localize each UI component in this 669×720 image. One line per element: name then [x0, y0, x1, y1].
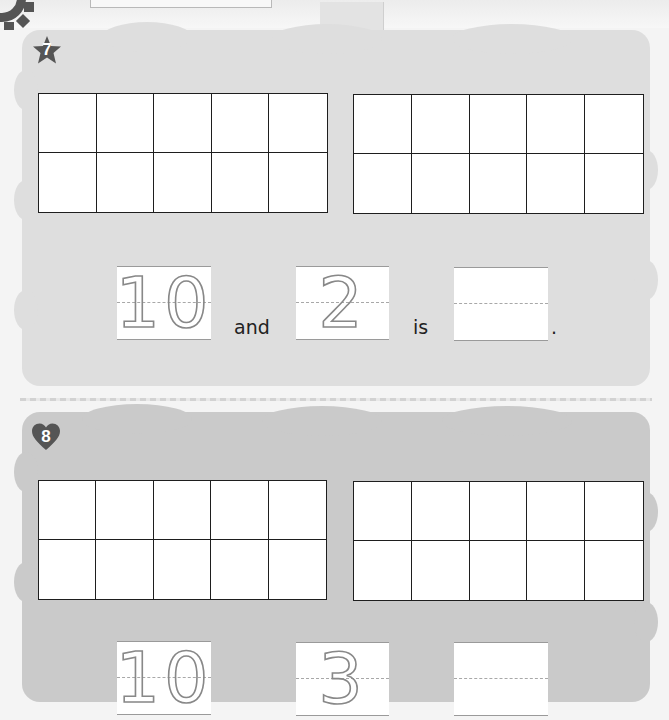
answer-text — [454, 643, 548, 715]
verb-text: is — [413, 316, 428, 338]
ten-frame-cell[interactable] — [154, 481, 211, 540]
exercise-number: 7 — [42, 40, 51, 60]
traced-number: 3 — [296, 643, 389, 715]
ten-frame-cell[interactable] — [212, 94, 270, 153]
exercise-number: 8 — [41, 427, 50, 447]
first-addend-box[interactable]: 10 — [117, 266, 211, 340]
ten-frame-cell[interactable] — [97, 94, 155, 153]
ten-frame-cell[interactable] — [412, 482, 470, 541]
ten-frame-cell[interactable] — [212, 153, 270, 212]
answer-box[interactable] — [454, 642, 548, 716]
ten-frame-cell[interactable] — [211, 481, 268, 540]
ten-frame-cell[interactable] — [354, 541, 412, 600]
ten-frame-left[interactable] — [38, 480, 327, 600]
exercise-number-badge: 8 — [31, 422, 61, 452]
ten-frame-cell[interactable] — [39, 94, 97, 153]
ten-frame-cell[interactable] — [97, 153, 155, 212]
ten-frame-cell[interactable] — [470, 482, 528, 541]
ten-frame-cell[interactable] — [585, 482, 643, 541]
ten-frame-cell[interactable] — [154, 94, 212, 153]
ten-frame-cell[interactable] — [412, 541, 470, 600]
second-addend-box[interactable]: 2 — [296, 266, 389, 340]
traced-number: 2 — [296, 267, 389, 339]
ten-frame-cell[interactable] — [39, 153, 97, 212]
ten-frame-cell[interactable] — [39, 540, 96, 599]
traced-number: 10 — [117, 642, 211, 714]
ten-frame-cell[interactable] — [39, 481, 96, 540]
ten-frame-cell[interactable] — [585, 95, 643, 154]
ten-frame-cell[interactable] — [354, 154, 412, 213]
ten-frame-left[interactable] — [38, 93, 328, 213]
ten-frame-cell[interactable] — [470, 154, 528, 213]
exercise-number-badge: 7 — [32, 35, 62, 65]
second-addend-box[interactable]: 3 — [296, 642, 389, 716]
answer-text — [454, 268, 548, 340]
ten-frame-cell[interactable] — [269, 540, 326, 599]
ten-frame-cell[interactable] — [154, 540, 211, 599]
ten-frame-cell[interactable] — [470, 541, 528, 600]
ten-frame-cell[interactable] — [354, 482, 412, 541]
header-card — [90, 0, 272, 8]
first-addend-box[interactable]: 10 — [117, 641, 211, 715]
ten-frame-cell[interactable] — [585, 154, 643, 213]
ten-frame-cell[interactable] — [412, 95, 470, 154]
ten-frame-cell[interactable] — [269, 94, 327, 153]
section-divider — [20, 398, 652, 401]
ten-frame-cell[interactable] — [154, 153, 212, 212]
ten-frame-cell[interactable] — [269, 481, 326, 540]
gear-icon — [0, 0, 40, 30]
ten-frame-right[interactable] — [353, 481, 644, 601]
traced-number: 10 — [117, 267, 211, 339]
ten-frame-cell[interactable] — [527, 154, 585, 213]
ten-frame-cell[interactable] — [269, 153, 327, 212]
sentence-period: . — [551, 316, 557, 338]
answer-box[interactable] — [454, 267, 548, 341]
ten-frame-cell[interactable] — [354, 95, 412, 154]
ten-frame-cell[interactable] — [412, 154, 470, 213]
ten-frame-cell[interactable] — [96, 481, 153, 540]
ten-frame-cell[interactable] — [470, 95, 528, 154]
ten-frame-cell[interactable] — [527, 541, 585, 600]
connector-text: and — [234, 316, 270, 338]
ten-frame-cell[interactable] — [527, 482, 585, 541]
ten-frame-cell[interactable] — [585, 541, 643, 600]
ten-frame-cell[interactable] — [211, 540, 268, 599]
ten-frame-right[interactable] — [353, 94, 644, 214]
ten-frame-cell[interactable] — [96, 540, 153, 599]
ten-frame-cell[interactable] — [527, 95, 585, 154]
